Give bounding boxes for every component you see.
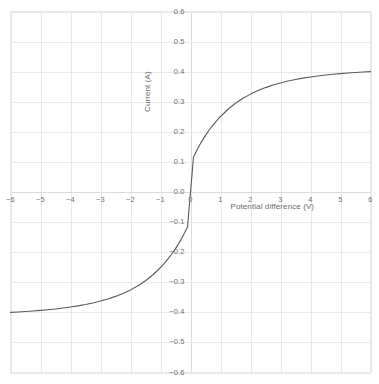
y-tick-0: 0.6 bbox=[149, 7, 185, 16]
y-tick-3: 0.3 bbox=[149, 97, 185, 106]
y-tick-6: 0.0 bbox=[149, 187, 185, 196]
x-tick-6: 0 bbox=[176, 195, 206, 204]
x-tick-3: −3 bbox=[86, 195, 116, 204]
y-axis-title: Current (A) bbox=[143, 71, 152, 112]
x-tick-11: 5 bbox=[326, 195, 356, 204]
x-tick-1: −5 bbox=[26, 195, 56, 204]
x-axis-title: Potential difference (V) bbox=[231, 202, 315, 211]
x-tick-5: −1 bbox=[146, 195, 176, 204]
y-tick-12: −0.6 bbox=[149, 368, 185, 377]
y-tick-5: 0.1 bbox=[149, 157, 185, 166]
y-tick-7: −0.1 bbox=[149, 217, 185, 226]
x-tick-12: 6 bbox=[356, 195, 379, 204]
x-tick-0: −6 bbox=[0, 195, 26, 204]
iv-characteristic-chart: −6−5−4−3−2−10123456 0.60.50.40.30.20.10.… bbox=[0, 0, 379, 384]
y-tick-1: 0.5 bbox=[149, 37, 185, 46]
y-tick-4: 0.2 bbox=[149, 127, 185, 136]
y-tick-8: −0.2 bbox=[149, 247, 185, 256]
x-tick-2: −4 bbox=[56, 195, 86, 204]
x-tick-4: −2 bbox=[116, 195, 146, 204]
y-tick-2: 0.4 bbox=[149, 67, 185, 76]
y-tick-9: −0.3 bbox=[149, 277, 185, 286]
y-tick-10: −0.4 bbox=[149, 307, 185, 316]
y-tick-11: −0.5 bbox=[149, 337, 185, 346]
plot-canvas bbox=[0, 0, 379, 384]
